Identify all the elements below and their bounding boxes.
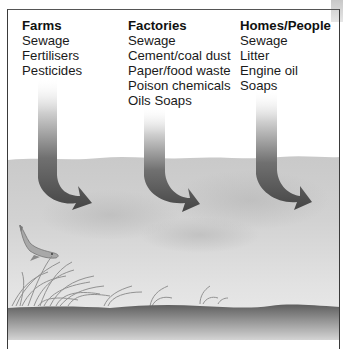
pollutant-label: Poison chemicals (128, 78, 231, 93)
source-homes-people: Homes/People Sewage Litter Engine oil So… (240, 18, 331, 93)
source-farms: Farms Sewage Fertilisers Pesticides (22, 18, 82, 78)
pollutant-label: Paper/food waste (128, 63, 231, 78)
pollutant-label: Sewage (240, 33, 331, 48)
source-factories: Factories Sewage Cement/coal dust Paper/… (128, 18, 231, 108)
pollutant-label: Cement/coal dust (128, 48, 231, 63)
source-heading: Factories (128, 18, 231, 33)
pollutant-label: Soaps (240, 78, 331, 93)
pollutant-label: Sewage (128, 33, 231, 48)
source-heading: Farms (22, 18, 82, 33)
pollutant-label: Pesticides (22, 63, 82, 78)
pollutant-label: Oils Soaps (128, 93, 231, 108)
pollutant-label: Fertilisers (22, 48, 82, 63)
pollutant-label: Sewage (22, 33, 82, 48)
pollutant-label: Litter (240, 48, 331, 63)
pollutant-label: Engine oil (240, 63, 331, 78)
source-heading: Homes/People (240, 18, 331, 33)
